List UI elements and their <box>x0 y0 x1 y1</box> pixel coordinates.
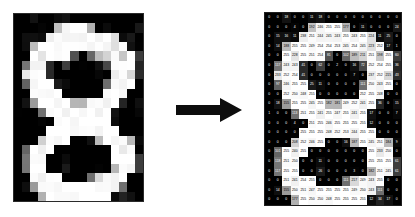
matrix-cell: 0 <box>376 119 385 129</box>
matrix-cell: 243 <box>367 186 376 196</box>
digit-pixel <box>30 182 38 191</box>
matrix-cell: 7 <box>393 109 402 119</box>
digit-pixel <box>38 70 46 79</box>
matrix-cell: 0 <box>376 13 385 23</box>
matrix-cell: 255 <box>299 42 308 52</box>
digit-pixel <box>14 145 22 154</box>
matrix-cell: 245 <box>308 99 317 109</box>
matrix-cell: 251 <box>299 109 308 119</box>
matrix-cell: 12 <box>367 195 376 205</box>
matrix-cell: 252 <box>299 138 308 148</box>
matrix-cell: 0 <box>333 51 342 61</box>
digit-pixel <box>111 42 119 51</box>
matrix-cell: 250 <box>291 157 300 167</box>
matrix-cell: 255 <box>367 90 376 100</box>
digit-pixel <box>46 173 54 182</box>
digit-pixel <box>70 154 78 163</box>
matrix-cell: 0 <box>299 119 308 129</box>
digit-pixel <box>95 164 103 173</box>
matrix-cell: 255 <box>316 128 325 138</box>
digit-pixel <box>30 70 38 79</box>
digit-pixel <box>30 145 38 154</box>
matrix-cell: 0 <box>325 80 334 90</box>
digit-pixel <box>30 89 38 98</box>
digit-pixel <box>119 42 127 51</box>
digit-pixel <box>95 61 103 70</box>
matrix-cell: 255 <box>384 80 393 90</box>
digit-pixel <box>127 182 135 191</box>
matrix-cell: 243 <box>350 32 359 42</box>
matrix-cell: 255 <box>359 128 368 138</box>
matrix-cell: 255 <box>299 128 308 138</box>
matrix-cell: 252 <box>350 99 359 109</box>
digit-pixel <box>62 61 70 70</box>
matrix-cell: 0 <box>265 23 274 33</box>
digit-pixel <box>54 23 62 32</box>
digit-pixel <box>119 145 127 154</box>
digit-pixel <box>14 14 22 23</box>
matrix-cell: 36 <box>376 99 385 109</box>
matrix-cell: 241 <box>359 99 368 109</box>
digit-pixel <box>62 145 70 154</box>
digit-pixel <box>38 173 46 182</box>
digit-pixel <box>46 136 54 145</box>
digit-pixel <box>30 42 38 51</box>
matrix-cell: 0 <box>325 61 334 71</box>
matrix-cell: 0 <box>350 80 359 90</box>
matrix-cell: 255 <box>333 119 342 129</box>
digit-pixel <box>70 192 78 201</box>
matrix-cell: 255 <box>384 61 393 71</box>
matrix-cell: 249 <box>350 186 359 196</box>
matrix-cell: 16 <box>282 32 291 42</box>
matrix-cell: 0 <box>274 109 283 119</box>
matrix-cell: 7 <box>350 71 359 81</box>
digit-pixel <box>95 51 103 60</box>
matrix-cell: 0 <box>308 71 317 81</box>
matrix-cell: 18 <box>316 13 325 23</box>
digit-pixel <box>79 98 87 107</box>
matrix-cell: 187 <box>350 138 359 148</box>
digit-pixel <box>95 14 103 23</box>
matrix-cell: 0 <box>384 13 393 23</box>
matrix-cell: 15 <box>393 99 402 109</box>
digit-pixel <box>95 89 103 98</box>
digit-pixel <box>38 23 46 32</box>
matrix-cell: 245 <box>367 138 376 148</box>
digit-pixel <box>38 98 46 107</box>
matrix-cell: 0 <box>325 176 334 186</box>
digit-pixel <box>103 182 111 191</box>
matrix-cell: 255 <box>316 186 325 196</box>
digit-pixel <box>54 98 62 107</box>
digit-pixel <box>22 14 30 23</box>
digit-pixel <box>30 51 38 60</box>
matrix-cell: 25 <box>384 32 393 42</box>
digit-pixel <box>54 173 62 182</box>
digit-pixel <box>95 23 103 32</box>
digit-pixel <box>87 173 95 182</box>
matrix-cell: 255 <box>342 119 351 129</box>
digit-pixel <box>62 51 70 60</box>
matrix-cell: 251 <box>299 186 308 196</box>
matrix-cell: 255 <box>359 32 368 42</box>
digit-pixel <box>135 89 143 98</box>
digit-pixel <box>135 70 143 79</box>
digit-pixel <box>14 98 22 107</box>
digit-pixel <box>14 51 22 60</box>
digit-pixel <box>119 79 127 88</box>
matrix-cell: 0 <box>359 157 368 167</box>
digit-pixel <box>119 61 127 70</box>
digit-pixel <box>135 126 143 135</box>
matrix-cell: 0 <box>384 23 393 33</box>
digit-pixel <box>111 164 119 173</box>
matrix-cell: 245 <box>325 32 334 42</box>
digit-pixel <box>30 98 38 107</box>
matrix-cell: 0 <box>350 147 359 157</box>
matrix-cell: 0 <box>359 147 368 157</box>
digit-pixel <box>62 70 70 79</box>
matrix-cell: 255 <box>384 157 393 167</box>
matrix-cell: 0 <box>274 128 283 138</box>
matrix-cell: 0 <box>350 23 359 33</box>
digit-pixel <box>103 145 111 154</box>
digit-pixel <box>14 33 22 42</box>
matrix-cell: 0 <box>265 167 274 177</box>
